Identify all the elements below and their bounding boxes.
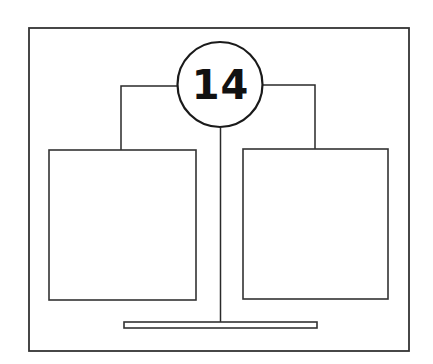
base-bar [124, 322, 317, 328]
right-panel [243, 149, 388, 299]
badge-number: 14 [177, 41, 264, 128]
left-panel [49, 150, 196, 300]
